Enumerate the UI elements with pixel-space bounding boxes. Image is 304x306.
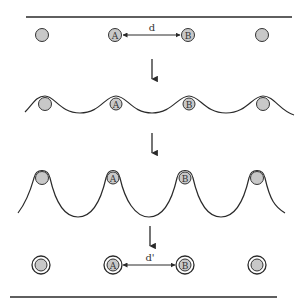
particle-a-label: A [112, 100, 120, 110]
particle-a: A [104, 256, 122, 274]
particle-b: B [179, 172, 191, 184]
particle-b-label: B [185, 31, 192, 41]
stage-3-large-deformation: A B [18, 171, 285, 218]
particle-a-label: A [109, 174, 117, 184]
particle-a: A [110, 98, 122, 110]
particle-circle [251, 172, 264, 185]
particle-b: B [183, 98, 195, 110]
coated-particle [32, 256, 50, 274]
particle-b: B [176, 256, 194, 274]
particle-circle [36, 29, 49, 42]
deformed-interface-wave [18, 171, 285, 218]
stage-1-flat-interface: A B d [26, 17, 292, 42]
particle-b: B [182, 29, 195, 42]
stage-4-encapsulated: A B d' [10, 252, 277, 297]
particle-b-label: B [182, 261, 189, 271]
particle-circle [36, 172, 49, 185]
particle-circle [256, 29, 269, 42]
particle-b-label: B [186, 100, 193, 110]
particle-a-label: A [109, 261, 117, 271]
particle-a-label: A [111, 31, 119, 41]
distance-label-d: d [149, 22, 156, 33]
particle-circle [39, 98, 52, 111]
particle-interface-diagram: A B d A B A [0, 0, 304, 306]
particle-b-label: B [182, 174, 189, 184]
distance-label-d-prime: d' [145, 252, 154, 263]
particle-a: A [107, 172, 119, 184]
particle-a: A [109, 29, 122, 42]
stage-2-small-deformation: A B [25, 96, 294, 115]
particle-circle [257, 98, 270, 111]
coated-particle [248, 256, 266, 274]
deformed-interface-wave [25, 96, 294, 115]
